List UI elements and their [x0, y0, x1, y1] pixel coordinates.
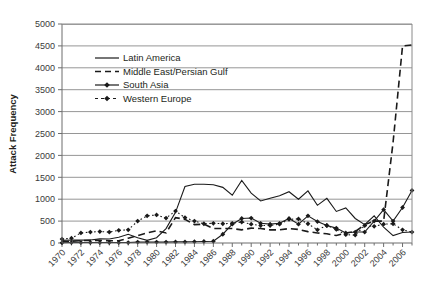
x-tick-label: 1986	[198, 247, 219, 268]
x-tick-label: 1976	[103, 247, 124, 268]
legend-label: Latin America	[123, 52, 181, 63]
x-tick-label: 1972	[65, 247, 86, 268]
legend-label: South Asia	[123, 79, 169, 90]
x-tick-label: 1990	[235, 247, 256, 268]
x-tick-label: 1998	[311, 247, 332, 268]
y-tick-label: 4000	[35, 63, 55, 73]
y-tick-label: 3500	[35, 85, 55, 95]
y-tick-label: 0	[50, 238, 55, 248]
x-tick-label: 1974	[84, 247, 105, 268]
x-axis-tick-labels: 1970197219741976197819801982198419861988…	[46, 243, 412, 269]
x-tick-label: 1984	[179, 247, 200, 268]
y-tick-label: 1500	[35, 173, 55, 183]
x-tick-label: 2004	[368, 247, 389, 268]
legend-label: Middle East/Persian Gulf	[123, 66, 228, 77]
y-tick-label: 1000	[35, 194, 55, 204]
y-tick-label: 3000	[35, 107, 55, 117]
y-tick-label: 2000	[35, 151, 55, 161]
legend-label: Western Europe	[123, 93, 191, 104]
chart-figure: 0500100015002000250030003500400045005000…	[0, 0, 436, 289]
y-tick-label: 4500	[35, 41, 55, 51]
y-tick-label: 2500	[35, 129, 55, 139]
x-tick-label: 1994	[273, 247, 294, 268]
x-tick-label: 1970	[46, 247, 67, 268]
x-tick-label: 1982	[160, 247, 181, 268]
y-axis-title: Attack Frequency	[7, 93, 18, 173]
x-tick-label: 1978	[122, 247, 143, 268]
y-tick-label: 5000	[35, 19, 55, 29]
x-tick-label: 2002	[349, 247, 370, 268]
y-tick-label: 500	[40, 216, 55, 226]
x-tick-label: 2000	[330, 247, 351, 268]
x-tick-label: 1980	[141, 247, 162, 268]
x-tick-label: 1992	[254, 247, 275, 268]
attack-frequency-line-chart: 0500100015002000250030003500400045005000…	[0, 0, 436, 289]
top-clip-mask	[62, 0, 412, 24]
y-axis-tick-labels: 0500100015002000250030003500400045005000	[35, 19, 55, 248]
x-tick-label: 1996	[292, 247, 313, 268]
x-tick-label: 1988	[216, 247, 237, 268]
x-tick-label: 2006	[387, 247, 408, 268]
